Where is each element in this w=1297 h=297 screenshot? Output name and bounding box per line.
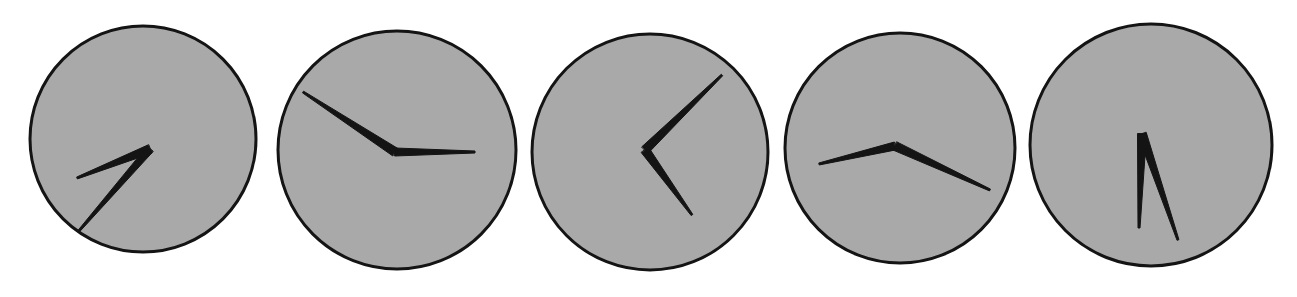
clock-face-5 [1016,10,1286,280]
clock-dial [1030,24,1272,266]
clock-face-3 [518,20,782,284]
clock-dial [30,26,256,252]
clock-face-1 [16,12,270,266]
clock-face-row [0,0,1297,297]
clock-face-4 [771,19,1029,277]
clock-face-2 [264,17,530,283]
